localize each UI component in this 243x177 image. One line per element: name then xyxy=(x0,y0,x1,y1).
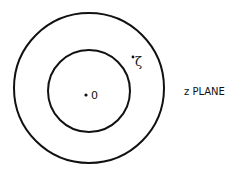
origin-point xyxy=(84,93,87,96)
zeta-point xyxy=(132,56,135,59)
zeta-label: ζ xyxy=(135,54,142,69)
origin-label: 0 xyxy=(91,89,98,102)
inner-circle xyxy=(48,50,130,132)
plane-label: z PLANE xyxy=(184,86,225,97)
outer-circle xyxy=(14,13,164,163)
z-plane-diagram: 0 ζ z PLANE xyxy=(0,0,243,177)
